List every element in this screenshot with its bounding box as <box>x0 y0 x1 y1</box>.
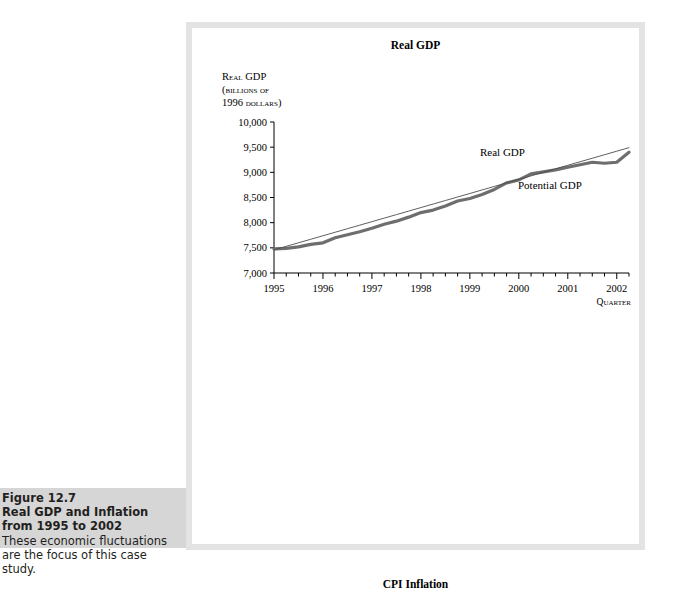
svg-text:9,000: 9,000 <box>243 167 267 178</box>
caption-body: These economic fluctuations are the focu… <box>2 534 182 577</box>
svg-text:7,000: 7,000 <box>243 268 267 279</box>
chart-cpi-inflation: CPI Inflation CPI Inflation (percent) 1.… <box>192 300 639 556</box>
caption-figure-number: Figure 12.7 <box>2 491 182 505</box>
svg-text:1997: 1997 <box>361 283 382 294</box>
svg-text:9,500: 9,500 <box>243 142 267 153</box>
svg-text:2001: 2001 <box>557 283 578 294</box>
caption-title: Real GDP and Inflation from 1995 to 2002 <box>2 505 182 533</box>
figure-panel: Real GDP Real GDP (billions of 1996 doll… <box>186 22 645 550</box>
svg-text:10,000: 10,000 <box>238 117 267 128</box>
figure-caption: Figure 12.7 Real GDP and Inflation from … <box>0 488 186 576</box>
svg-text:8,500: 8,500 <box>243 192 267 203</box>
svg-text:1998: 1998 <box>410 283 431 294</box>
svg-text:1995: 1995 <box>264 283 285 294</box>
plot-area-real-gdp: 7,0007,5008,0008,5009,0009,50010,0001995… <box>192 28 651 300</box>
svg-text:2002: 2002 <box>606 283 627 294</box>
svg-text:2000: 2000 <box>508 283 529 294</box>
chart-real-gdp: Real GDP Real GDP (billions of 1996 doll… <box>192 28 639 300</box>
svg-text:8,000: 8,000 <box>243 217 267 228</box>
plot-area-cpi: 1.001.502.002.503.003.504.00199519961997… <box>192 572 651 595</box>
svg-text:1999: 1999 <box>459 283 480 294</box>
svg-text:1996: 1996 <box>312 283 333 294</box>
svg-text:7,500: 7,500 <box>243 242 267 253</box>
svg-text:Real GDP: Real GDP <box>480 146 525 158</box>
svg-text:Potential GDP: Potential GDP <box>518 179 582 191</box>
